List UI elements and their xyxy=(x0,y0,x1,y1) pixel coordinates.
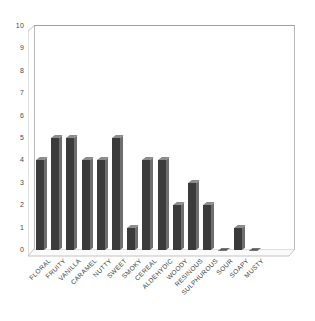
bar[interactable] xyxy=(112,138,120,250)
bar-slot[interactable] xyxy=(95,25,110,257)
y-tick-label: 7 xyxy=(4,89,24,96)
y-axis: 109876543210 xyxy=(0,0,24,321)
bar[interactable] xyxy=(51,138,59,250)
y-tick-label: 6 xyxy=(4,111,24,118)
bar-slot[interactable] xyxy=(171,25,186,257)
bar[interactable] xyxy=(203,205,211,250)
bar-side-face xyxy=(105,158,108,250)
bar-side-face xyxy=(211,203,214,250)
bar[interactable] xyxy=(173,205,181,250)
bars-layer xyxy=(28,25,295,257)
y-tick-label: 5 xyxy=(4,134,24,141)
y-tick-label: 9 xyxy=(4,44,24,51)
bar-side-face xyxy=(59,136,62,250)
bar-side-face xyxy=(90,158,93,250)
bar[interactable] xyxy=(127,228,135,250)
bar-side-face xyxy=(150,158,153,250)
bar-side-face xyxy=(242,225,245,250)
bar-side-face xyxy=(44,158,47,250)
bar[interactable] xyxy=(188,183,196,250)
bar-side-face xyxy=(181,203,184,250)
bar[interactable] xyxy=(234,228,242,250)
bar-slot[interactable] xyxy=(156,25,171,257)
bar[interactable] xyxy=(36,160,44,250)
bar-slot[interactable] xyxy=(80,25,95,257)
bar-slot[interactable] xyxy=(34,25,49,257)
bar-slot[interactable] xyxy=(201,25,216,257)
y-tick-label: 0 xyxy=(4,246,24,253)
bar[interactable] xyxy=(97,160,105,250)
bar-side-face xyxy=(166,158,169,250)
bar-slot[interactable] xyxy=(186,25,201,257)
bar[interactable] xyxy=(142,160,150,250)
bar-slot[interactable] xyxy=(49,25,64,257)
bar-chart: 109876543210 FLORALFRUITYVANILLACARAMELN… xyxy=(0,0,315,321)
bar-slot[interactable] xyxy=(64,25,79,257)
bar[interactable] xyxy=(66,138,74,250)
bar[interactable] xyxy=(158,160,166,250)
x-axis: FLORALFRUITYVANILLACARAMELNUTTYSWEETSMOK… xyxy=(28,257,315,321)
bar[interactable] xyxy=(82,160,90,250)
bar-side-face xyxy=(196,180,199,250)
y-tick-label: 8 xyxy=(4,66,24,73)
bar-slot[interactable] xyxy=(125,25,140,257)
bar-slot[interactable] xyxy=(216,25,231,257)
bar-slot[interactable] xyxy=(232,25,247,257)
y-tick-label: 10 xyxy=(4,22,24,29)
bar-side-face xyxy=(120,136,123,250)
bar-side-face xyxy=(74,136,77,250)
y-tick-label: 4 xyxy=(4,156,24,163)
bar-slot[interactable] xyxy=(110,25,125,257)
bar-top-face xyxy=(249,248,261,251)
bar-slot[interactable] xyxy=(247,25,262,257)
bar-top-face xyxy=(218,248,230,251)
bar-side-face xyxy=(135,225,138,250)
bar-slot[interactable] xyxy=(140,25,155,257)
y-tick-label: 3 xyxy=(4,178,24,185)
y-tick-label: 1 xyxy=(4,223,24,230)
y-tick-label: 2 xyxy=(4,201,24,208)
